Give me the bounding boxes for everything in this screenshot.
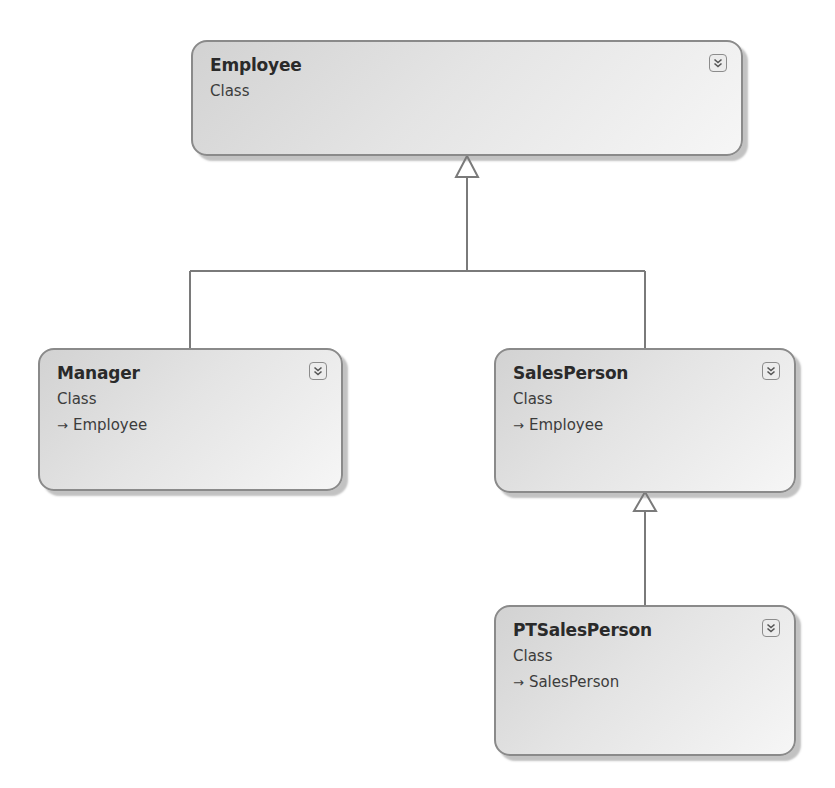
class-box-manager[interactable]: Manager Class → Employee	[38, 348, 343, 491]
base-class-reference: → Employee	[57, 416, 147, 434]
class-name: SalesPerson	[513, 363, 628, 383]
class-diagram-canvas: Employee Class Manager Class → Employee …	[0, 0, 835, 788]
expand-toggle-button[interactable]	[709, 54, 727, 72]
class-box-employee[interactable]: Employee Class	[191, 40, 743, 156]
class-kind: Class	[210, 82, 249, 100]
class-kind: Class	[57, 390, 96, 408]
base-class-reference: → Employee	[513, 416, 603, 434]
class-kind: Class	[513, 390, 552, 408]
class-name: Manager	[57, 363, 140, 383]
base-class-reference: → SalesPerson	[513, 673, 619, 691]
double-chevron-down-icon	[713, 58, 723, 68]
class-box-salesperson[interactable]: SalesPerson Class → Employee	[494, 348, 796, 493]
inheritance-arrow-icon: →	[57, 418, 68, 433]
base-class-name: Employee	[529, 416, 603, 434]
class-kind: Class	[513, 647, 552, 665]
class-name: PTSalesPerson	[513, 620, 652, 640]
base-class-name: SalesPerson	[529, 673, 619, 691]
class-name: Employee	[210, 55, 302, 75]
class-box-ptsalesperson[interactable]: PTSalesPerson Class → SalesPerson	[494, 605, 796, 756]
inheritance-arrow-icon: →	[513, 675, 524, 690]
inheritance-arrowhead-employee	[456, 156, 478, 177]
double-chevron-down-icon	[313, 366, 323, 376]
expand-toggle-button[interactable]	[762, 619, 780, 637]
inheritance-arrow-icon: →	[513, 418, 524, 433]
expand-toggle-button[interactable]	[309, 362, 327, 380]
double-chevron-down-icon	[766, 623, 776, 633]
double-chevron-down-icon	[766, 366, 776, 376]
inheritance-arrowhead-salesperson	[634, 492, 656, 511]
base-class-name: Employee	[73, 416, 147, 434]
expand-toggle-button[interactable]	[762, 362, 780, 380]
